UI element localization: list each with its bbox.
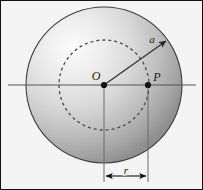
label-point-p: P — [152, 70, 161, 84]
label-point-o: O — [92, 69, 101, 83]
label-dimension-r: r — [124, 164, 129, 176]
sphere-diagram-svg: O P a r — [0, 0, 203, 190]
interior-point-p — [145, 82, 151, 88]
figure-canvas: O P a r — [0, 0, 203, 190]
label-arrow-a: a — [149, 33, 155, 45]
center-point-o — [101, 82, 107, 88]
